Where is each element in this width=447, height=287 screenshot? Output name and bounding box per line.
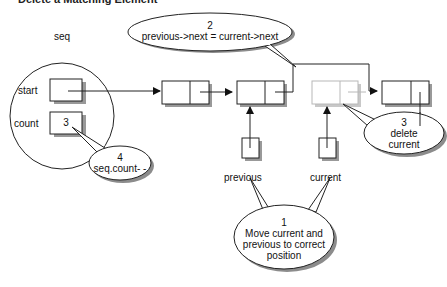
callout-3-line-1: delete (374, 128, 434, 139)
callout-1-text: 1 Move current and previous to correct p… (234, 217, 334, 261)
start-field-box (50, 79, 82, 101)
callout-4-line: seq.count- - (90, 163, 150, 174)
count-field-value: 3 (58, 117, 74, 128)
callout-1-line-3: position (234, 250, 334, 261)
count-field-label: count (14, 118, 38, 129)
callout-1-line-2: previous to correct (234, 239, 334, 250)
callout-3-line-2: current (374, 139, 434, 150)
start-field-label: start (18, 85, 37, 96)
callout-2-line: previous->next = current->next (130, 31, 290, 42)
previous-pointer-label: previous (224, 172, 262, 183)
callout-3-text: 3 delete current (374, 117, 434, 150)
node-4 (382, 81, 429, 104)
callout-4-text: 4 seq.count- - (90, 152, 150, 174)
callout-4-number: 4 (90, 152, 150, 163)
seq-label: seq (50, 31, 74, 42)
current-pointer-label: current (310, 172, 341, 183)
callout-2-text: 2 previous->next = current->next (130, 20, 290, 42)
callout-3-number: 3 (374, 117, 434, 128)
linked-list-delete-diagram: Delete a Matching Element (0, 0, 447, 287)
callout-2-number: 2 (130, 20, 290, 31)
callout-1-number: 1 (234, 217, 334, 228)
callout-1-line-1: Move current and (234, 228, 334, 239)
